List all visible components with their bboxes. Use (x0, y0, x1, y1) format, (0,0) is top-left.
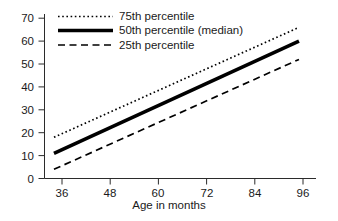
y-tick-label-30: 30 (6, 105, 34, 117)
x-tick-label-96: 96 (283, 188, 323, 200)
series-line-50th-median (54, 41, 299, 153)
legend-label-25th: 25th percentile (119, 40, 194, 52)
y-tick-label-10: 10 (6, 151, 34, 163)
y-tick-label-20: 20 (6, 128, 34, 140)
y-tick-label-50: 50 (6, 59, 34, 71)
chart-figure: 70 60 50 40 30 20 10 0 36 48 60 72 84 96… (0, 0, 338, 221)
x-tick-label-84: 84 (235, 188, 275, 200)
legend-label-50th-median: 50th percentile (median) (119, 25, 243, 37)
x-tick-label-48: 48 (90, 188, 130, 200)
y-tick-label-40: 40 (6, 82, 34, 94)
x-axis-title: Age in months (0, 199, 338, 211)
y-tick-label-0: 0 (6, 174, 34, 186)
series-line-25th (54, 59, 299, 169)
x-axis-ticks (62, 179, 303, 185)
y-tick-label-60: 60 (6, 36, 34, 48)
x-tick-label-60: 60 (138, 188, 178, 200)
legend-label-75th: 75th percentile (119, 11, 194, 23)
y-axis-ticks (39, 18, 45, 178)
x-tick-label-72: 72 (187, 188, 227, 200)
y-tick-label-70: 70 (6, 13, 34, 25)
x-tick-label-36: 36 (42, 188, 82, 200)
